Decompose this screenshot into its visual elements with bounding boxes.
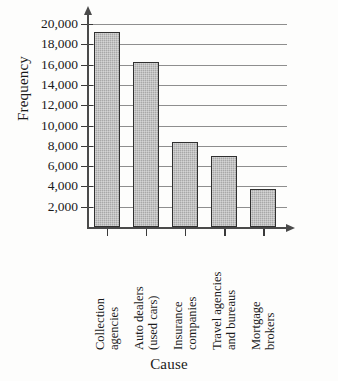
category-label-line-2: agencies [107, 298, 121, 350]
category-label-line-2: and bureaus [224, 272, 238, 350]
gridline [87, 24, 287, 25]
x-axis-tick-mark [224, 229, 225, 236]
category-label-line-2: brokers [263, 301, 277, 350]
bar [94, 32, 120, 227]
x-axis-line [87, 227, 287, 229]
x-axis-tick-mark [263, 229, 264, 236]
y-axis-tick-label: 20,000 [16, 17, 78, 31]
x-axis-arrow-icon [286, 224, 295, 232]
bar [133, 62, 159, 227]
category-label-line-1: Insurance [171, 301, 185, 350]
y-axis-tick-label: 6,000 [16, 159, 78, 173]
x-axis-tick-mark [107, 229, 108, 236]
category-label-line-1: Travel agencies [210, 272, 224, 350]
category-label-line-1: Mortgage [249, 301, 263, 350]
y-axis-tick-label: 4,000 [16, 179, 78, 193]
y-axis-tick-label: 10,000 [16, 119, 78, 133]
y-axis-tick-label: 14,000 [16, 78, 78, 92]
y-axis-line [87, 14, 89, 228]
bar [172, 142, 198, 227]
x-axis-category-label: Mortgagebrokers [249, 301, 277, 350]
x-axis-category-label: Collectionagencies [93, 298, 121, 350]
y-axis-tick-label: 16,000 [16, 58, 78, 72]
y-axis-tick-label: 8,000 [16, 139, 78, 153]
y-axis-arrow-icon [84, 6, 92, 15]
x-axis-category-label: Auto dealers(used cars) [132, 286, 160, 350]
y-axis-tick-label: 12,000 [16, 98, 78, 112]
x-axis-title: Cause [0, 356, 338, 373]
x-axis-tick-mark [146, 229, 147, 236]
category-label-line-1: Auto dealers [132, 286, 146, 350]
bar-chart: Frequency 2,0004,0006,0008,00010,00012,0… [0, 0, 338, 381]
y-axis-tick-label: 18,000 [16, 37, 78, 51]
category-label-line-2: companies [185, 297, 199, 350]
x-axis-tick-mark [185, 229, 186, 236]
y-axis-tick-label: 2,000 [16, 200, 78, 214]
x-axis-category-label: Travel agenciesand bureaus [210, 272, 238, 350]
category-label-line-1: Collection [93, 298, 107, 350]
bar [250, 189, 276, 227]
x-axis-category-label: Insurancecompanies [171, 297, 199, 350]
category-label-line-2: (used cars) [146, 286, 160, 350]
bar [211, 156, 237, 227]
